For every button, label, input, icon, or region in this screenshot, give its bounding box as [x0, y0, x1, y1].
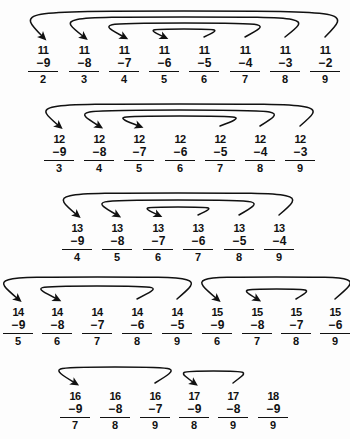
- subtrahend-line: −3: [270, 57, 300, 72]
- subtraction-problem: 11−74: [107, 44, 141, 86]
- subtrahend: 5: [205, 56, 211, 70]
- subtraction-problem: 13−94: [60, 222, 94, 264]
- subtraction-problem: 12−48: [243, 133, 277, 175]
- difference: 9: [256, 418, 290, 432]
- difference: 9: [216, 418, 250, 432]
- subtraction-problem: 13−58: [222, 222, 256, 264]
- subtraction-problem: 11−38: [268, 44, 302, 86]
- subtraction-problem: 12−84: [82, 133, 116, 175]
- minuend: 17: [216, 390, 250, 402]
- relation-arrow: [30, 11, 337, 37]
- subtrahend-line: −2: [310, 57, 340, 72]
- relation-arrow: [109, 23, 260, 37]
- difference: 8: [98, 418, 132, 432]
- subtrahend-line: −7: [109, 57, 139, 72]
- minus-sign: −: [226, 402, 233, 416]
- subtraction-problem: 15−96: [200, 306, 234, 348]
- minuend: 12: [283, 133, 317, 145]
- difference: 5: [1, 334, 35, 348]
- subtrahend: 5: [240, 234, 246, 248]
- subtraction-problem: 11−47: [228, 44, 262, 86]
- subtrahend: 6: [138, 318, 144, 332]
- subtraction-problem: 14−77: [80, 306, 114, 348]
- difference: 9: [262, 250, 296, 264]
- minuend: 15: [318, 306, 350, 318]
- minus-sign: −: [210, 318, 217, 332]
- minus-sign: −: [108, 402, 115, 416]
- subtrahend-line: −6: [122, 319, 152, 334]
- minus-sign: −: [328, 318, 335, 332]
- minus-sign: −: [92, 145, 99, 159]
- subtrahend: 9: [76, 402, 82, 416]
- subtraction-problem: 15−69: [318, 306, 350, 348]
- subtraction-problem: 12−39: [283, 133, 317, 175]
- subtraction-problem: 14−86: [40, 306, 74, 348]
- subtraction-problem: 13−49: [262, 222, 296, 264]
- minus-sign: −: [117, 56, 124, 70]
- difference: 8: [279, 334, 313, 348]
- subtrahend: 8: [100, 145, 106, 159]
- subtrahend-line: −8: [102, 235, 132, 250]
- subtraction-problem: 12−57: [203, 133, 237, 175]
- subtrahend: 6: [165, 56, 171, 70]
- minuend: 14: [40, 306, 74, 318]
- minuend: 16: [98, 390, 132, 402]
- subtraction-problem: 12−93: [42, 133, 76, 175]
- minus-sign: −: [318, 56, 325, 70]
- subtrahend: 7: [297, 318, 303, 332]
- minus-sign: −: [197, 56, 204, 70]
- subtraction-problem: 12−75: [122, 133, 156, 175]
- minuend: 11: [308, 44, 342, 56]
- subtraction-problem: 18−99: [256, 390, 290, 432]
- relation-arrow: [102, 200, 254, 215]
- minuend: 11: [147, 44, 181, 56]
- minus-sign: −: [68, 402, 75, 416]
- difference: 8: [177, 418, 211, 432]
- subtrahend: 7: [140, 145, 146, 159]
- difference: 8: [243, 161, 277, 175]
- subtrahend-line: −4: [245, 146, 275, 161]
- subtrahend: 9: [78, 234, 84, 248]
- subtrahend: 3: [301, 145, 307, 159]
- minuend: 13: [181, 222, 215, 234]
- subtrahend-line: −9: [44, 146, 74, 161]
- difference: 6: [200, 334, 234, 348]
- minuend: 12: [82, 133, 116, 145]
- minus-sign: −: [110, 234, 117, 248]
- minus-sign: −: [132, 145, 139, 159]
- subtrahend: 2: [326, 56, 332, 70]
- subtraction-problem: 11−65: [147, 44, 181, 86]
- relation-arrow: [123, 116, 236, 126]
- minuend: 11: [26, 44, 60, 56]
- subtrahend: 7: [159, 234, 165, 248]
- subtraction-problem: 17−89: [216, 390, 250, 432]
- difference: 6: [163, 161, 197, 175]
- difference: 4: [107, 72, 141, 86]
- subtraction-problem: 14−95: [1, 306, 35, 348]
- minuend: 13: [60, 222, 94, 234]
- subtrahend-line: −9: [179, 403, 209, 418]
- minus-sign: −: [11, 318, 18, 332]
- difference: 6: [40, 334, 74, 348]
- subtrahend-line: −8: [84, 146, 114, 161]
- subtrahend-line: −6: [320, 319, 350, 334]
- minuend: 15: [200, 306, 234, 318]
- minus-sign: −: [213, 145, 220, 159]
- subtraction-problem: 16−79: [138, 390, 172, 432]
- subtrahend-line: −9: [60, 403, 90, 418]
- subtrahend: 9: [44, 56, 50, 70]
- difference: 8: [268, 72, 302, 86]
- minus-sign: −: [157, 56, 164, 70]
- subtrahend-line: −9: [202, 319, 232, 334]
- relation-arrow: [4, 277, 192, 299]
- difference: 8: [222, 250, 256, 264]
- difference: 4: [82, 161, 116, 175]
- difference: 7: [58, 418, 92, 432]
- relation-arrow: [59, 367, 171, 383]
- worksheet-sheet: 11−9211−8311−7411−6511−5611−4711−3811−29…: [0, 0, 350, 439]
- minus-sign: −: [77, 56, 84, 70]
- relation-arrow: [41, 286, 153, 299]
- relation-arrow: [70, 17, 298, 37]
- subtrahend-line: −8: [218, 403, 248, 418]
- subtrahend-line: −9: [258, 403, 288, 418]
